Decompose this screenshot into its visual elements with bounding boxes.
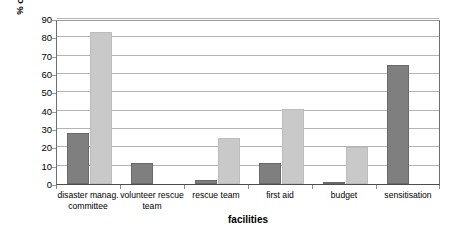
- bar-group: [377, 21, 441, 184]
- y-axis-tick-label: 30: [28, 125, 52, 134]
- y-axis-tick-mark: [52, 93, 56, 94]
- x-axis-tick-label: sensitisation: [370, 190, 446, 201]
- gridline: [57, 18, 439, 19]
- y-axis-tick-mark: [52, 167, 56, 168]
- y-axis-tick-label: 50: [28, 88, 52, 97]
- bar: [131, 163, 153, 184]
- y-axis-tick-label: 90: [28, 15, 52, 24]
- y-axis-tick-mark: [52, 38, 56, 39]
- y-axis-tick-label: 20: [28, 143, 52, 152]
- bar-group: [249, 21, 313, 184]
- x-axis-tick-mark: [312, 185, 313, 189]
- x-axis-tick-mark: [248, 185, 249, 189]
- y-axis-tick-mark: [52, 57, 56, 58]
- plot-area: [56, 20, 440, 185]
- bar: [346, 147, 368, 184]
- y-axis-tick-label: 70: [28, 52, 52, 61]
- bar: [67, 133, 89, 184]
- bar: [282, 109, 304, 184]
- bar-group: [57, 21, 121, 184]
- bar-group: [313, 21, 377, 184]
- y-axis-tick-mark: [52, 130, 56, 131]
- bar-group: [121, 21, 185, 184]
- x-axis-tick-mark: [439, 185, 440, 189]
- y-axis-title-container: % of respondants: [0, 0, 26, 240]
- y-axis-tick-mark: [52, 75, 56, 76]
- bar: [387, 65, 409, 184]
- bar: [323, 182, 345, 184]
- y-axis-tick-label: 10: [28, 162, 52, 171]
- x-axis-title: facilities: [56, 214, 440, 225]
- bar: [218, 138, 240, 184]
- x-axis-tick-mark: [120, 185, 121, 189]
- y-axis-tick-label: 60: [28, 70, 52, 79]
- bar: [90, 32, 112, 184]
- bar-group: [185, 21, 249, 184]
- y-axis-tick-mark: [52, 185, 56, 186]
- bar: [259, 163, 281, 184]
- y-axis-tick-mark: [52, 20, 56, 21]
- bar: [195, 180, 217, 184]
- y-axis-tick-mark: [52, 112, 56, 113]
- y-axis-tick-mark: [52, 148, 56, 149]
- y-axis-tick-label: 80: [28, 33, 52, 42]
- x-axis-tick-mark: [376, 185, 377, 189]
- x-axis-tick-mark: [184, 185, 185, 189]
- y-axis-tick-label: 0: [28, 180, 52, 189]
- y-axis-tick-label: 40: [28, 107, 52, 116]
- bar-chart: % of respondants 0102030405060708090 dis…: [0, 0, 463, 240]
- bars-layer: [57, 21, 439, 184]
- x-axis-tick-mark: [56, 185, 57, 189]
